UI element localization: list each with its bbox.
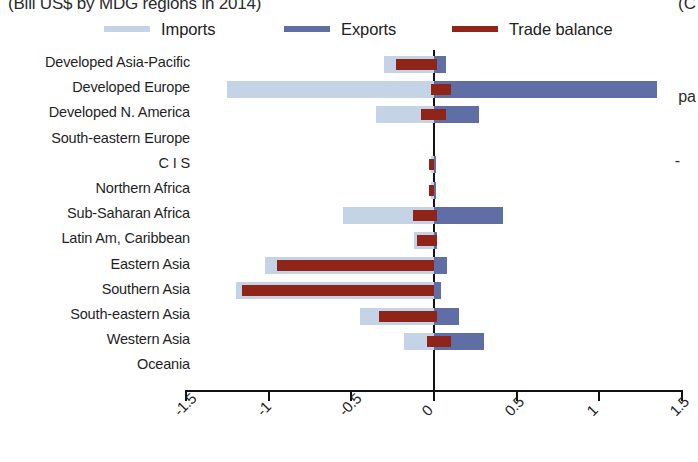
legend-item-exports: Exports (284, 18, 396, 40)
bar-imports (227, 81, 434, 98)
bar-trade-balance (396, 59, 437, 70)
legend-label-imports: Imports (161, 20, 215, 39)
bar-trade-balance (421, 109, 446, 120)
bar-trade-balance (429, 185, 434, 196)
legend-swatch-trade-balance (452, 26, 498, 32)
bar-exports (434, 182, 436, 199)
bar-trade-balance (242, 285, 434, 296)
axis-tick (268, 390, 270, 401)
axis-tick-label: 1.5 (666, 393, 692, 419)
axis-tick-label: -1 (253, 398, 274, 419)
axis-tick-label: 0.5 (501, 393, 527, 419)
plot-area: Developed Asia-PacificDeveloped EuropeDe… (0, 50, 698, 395)
neighbor-fragment-dash: - (675, 152, 680, 170)
value-axis: -1.5-1-0.500.511.5 (0, 390, 698, 462)
axis-tick-label: 1 (583, 401, 601, 419)
bar-trade-balance (427, 336, 450, 347)
bar-trade-balance (417, 235, 437, 246)
bar-trade-balance (429, 159, 434, 170)
axis-tick-label: -0.5 (335, 390, 364, 419)
bar-trade-balance (413, 210, 438, 221)
bar-exports (434, 282, 441, 299)
chart-legend: Imports Exports Trade balance (0, 18, 640, 40)
bar-exports (434, 156, 436, 173)
bar-trade-balance (277, 260, 434, 271)
bar-exports (434, 308, 459, 325)
legend-item-trade-balance: Trade balance (452, 18, 613, 40)
legend-swatch-imports (104, 26, 150, 32)
legend-label-exports: Exports (341, 20, 396, 39)
legend-item-imports: Imports (104, 18, 215, 40)
axis-tick (433, 390, 435, 401)
bar-exports (434, 81, 657, 98)
neighbor-panel-title-fragment: (C (678, 0, 696, 14)
legend-label-trade-balance: Trade balance (509, 20, 613, 39)
bar-exports (434, 207, 503, 224)
chart-title: (Bill US$ by MDG regions in 2014) (8, 0, 261, 14)
bar-trade-balance (431, 84, 451, 95)
chart-root: (Bill US$ by MDG regions in 2014) (C Imp… (0, 0, 698, 462)
legend-swatch-exports (284, 26, 330, 32)
axis-tick (598, 390, 600, 401)
bars-layer (0, 50, 698, 385)
bar-trade-balance (379, 311, 437, 322)
axis-tick-label: -1.5 (170, 390, 199, 419)
bar-exports (434, 257, 447, 274)
neighbor-fragment-pa: pa (678, 88, 696, 106)
axis-tick-label: 0 (418, 401, 436, 419)
